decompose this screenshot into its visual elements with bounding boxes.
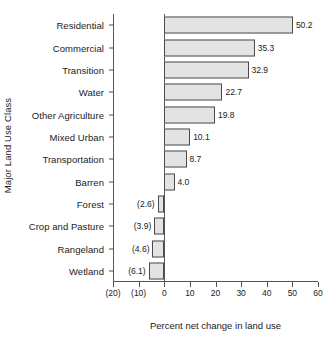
y-axis-line: [113, 14, 114, 282]
category-label: Water: [79, 87, 104, 98]
x-axis-tick-label: 50: [288, 288, 297, 298]
y-axis-tick: [109, 69, 114, 70]
x-axis-tick: [267, 282, 268, 287]
bar-value-label: (2.6): [137, 199, 154, 209]
bar: [164, 39, 254, 56]
x-axis-tick: [164, 282, 165, 287]
y-axis-tick: [109, 181, 114, 182]
bar-value-label: (6.1): [128, 266, 145, 276]
bar-value-label: 19.8: [218, 110, 235, 120]
bar-value-label: 32.9: [252, 65, 269, 75]
category-label: Wetland: [69, 265, 104, 276]
category-label: Transportation: [42, 154, 104, 165]
bar-value-label: (4.6): [132, 244, 149, 254]
category-axis: ResidentialCommercialTransitionWaterOthe…: [16, 14, 108, 282]
y-axis-tick: [109, 25, 114, 26]
category-label: Barren: [75, 176, 104, 187]
bar: [152, 240, 164, 257]
y-axis-tick: [109, 114, 114, 115]
bar: [164, 128, 190, 145]
x-axis-tick-label: (10): [131, 288, 146, 298]
category-label: Forest: [77, 198, 104, 209]
bar: [164, 106, 215, 123]
category-label: Crop and Pasture: [29, 221, 104, 232]
category-label: Other Agriculture: [32, 109, 104, 120]
bar-value-label: 10.1: [193, 132, 210, 142]
category-label: Transition: [62, 64, 104, 75]
y-axis-tick: [109, 226, 114, 227]
y-axis-tick: [109, 159, 114, 160]
bar: [154, 218, 164, 235]
x-axis-tick: [241, 282, 242, 287]
x-axis-tick-label: 60: [313, 288, 322, 298]
y-axis-tick: [109, 248, 114, 249]
x-axis-tick-label: 30: [236, 288, 245, 298]
category-label: Rangeland: [58, 243, 104, 254]
bar: [164, 84, 222, 101]
x-axis-tick-label: (20): [105, 288, 120, 298]
x-axis-tick: [216, 282, 217, 287]
x-axis-tick-label: 20: [211, 288, 220, 298]
bar: [158, 195, 165, 212]
y-axis-tick: [109, 92, 114, 93]
bar-value-label: 4.0: [178, 177, 190, 187]
y-axis-tick: [109, 136, 114, 137]
bar: [164, 151, 186, 168]
bar-value-label: 8.7: [190, 154, 202, 164]
bar-value-label: 22.7: [225, 87, 242, 97]
x-axis-title: Percent net change in land use: [113, 320, 318, 331]
bar-value-label: (3.9): [134, 221, 151, 231]
bar: [149, 262, 165, 279]
x-axis-tick: [139, 282, 140, 287]
x-axis-tick-label: 10: [185, 288, 194, 298]
x-axis: (20)(10)0102030405060: [113, 282, 318, 304]
bar-value-label: 35.3: [258, 43, 275, 53]
bar-value-label: 50.2: [296, 20, 313, 30]
bar: [164, 173, 174, 190]
bar-chart-figure: Major Land Use Class ResidentialCommerci…: [0, 0, 334, 340]
y-axis-title-text: Major Land Use Class: [3, 97, 14, 192]
category-label: Commercial: [53, 42, 104, 53]
x-axis-tick-label: 40: [262, 288, 271, 298]
x-axis-tick: [190, 282, 191, 287]
category-label: Mixed Urban: [50, 131, 104, 142]
y-axis-tick: [109, 203, 114, 204]
y-axis-tick: [109, 47, 114, 48]
y-axis-tick: [109, 270, 114, 271]
x-axis-tick-label: 0: [162, 288, 167, 298]
plot-area: 50.235.332.922.719.810.18.74.0(2.6)(3.9)…: [113, 14, 318, 282]
x-axis-tick: [292, 282, 293, 287]
category-label: Residential: [56, 20, 104, 31]
x-axis-tick: [113, 282, 114, 287]
bar: [164, 61, 248, 78]
bar: [164, 17, 293, 34]
y-axis-title: Major Land Use Class: [0, 0, 16, 290]
x-axis-tick: [318, 282, 319, 287]
